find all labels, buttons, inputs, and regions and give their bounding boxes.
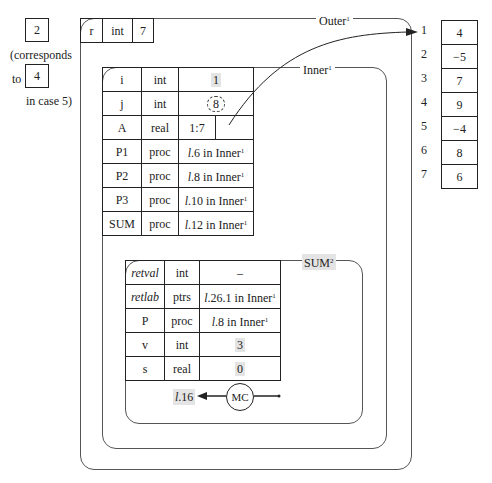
arrows-overlay [0, 0, 492, 483]
pointer-arrow [229, 32, 408, 125]
arrowhead-icon [197, 392, 207, 400]
mc-line-end-dot [278, 395, 281, 398]
arrowhead-icon [406, 28, 418, 36]
